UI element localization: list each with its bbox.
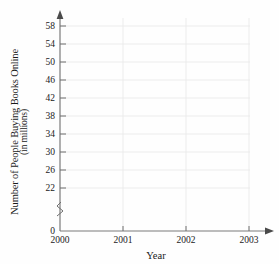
horizontal-gridlines xyxy=(60,26,250,188)
x-axis-arrow-icon xyxy=(265,228,274,235)
y-tick-marks xyxy=(60,26,66,188)
x-tick-label-2002: 2002 xyxy=(177,235,196,245)
plot-area: 58 54 50 46 42 38 34 30 26 22 0 2000 200… xyxy=(0,0,279,264)
y-tick-label-42: 42 xyxy=(46,93,56,103)
x-tick-label-2001: 2001 xyxy=(114,235,133,245)
y-tick-label-58: 58 xyxy=(46,21,56,31)
chart-container: Number of People Buying Books Online (in… xyxy=(0,0,279,264)
y-tick-label-26: 26 xyxy=(46,165,56,175)
y-tick-label-34: 34 xyxy=(46,129,56,139)
y-tick-labels: 58 54 50 46 42 38 34 30 26 22 0 xyxy=(46,21,56,236)
y-tick-label-30: 30 xyxy=(46,147,56,157)
x-tick-label-2000: 2000 xyxy=(51,235,70,245)
y-tick-label-22: 22 xyxy=(46,183,56,193)
y-tick-label-50: 50 xyxy=(46,57,56,67)
y-tick-label-38: 38 xyxy=(46,111,56,121)
y-tick-label-54: 54 xyxy=(46,39,56,49)
y-tick-label-46: 46 xyxy=(46,75,56,85)
y-axis-arrow-icon xyxy=(57,10,64,19)
x-tick-labels: 2000 2001 2002 2003 xyxy=(51,235,259,245)
x-axis-title: Year xyxy=(146,250,166,261)
x-tick-marks xyxy=(123,226,249,231)
vertical-gridlines xyxy=(123,18,249,231)
x-tick-label-2003: 2003 xyxy=(240,235,259,245)
